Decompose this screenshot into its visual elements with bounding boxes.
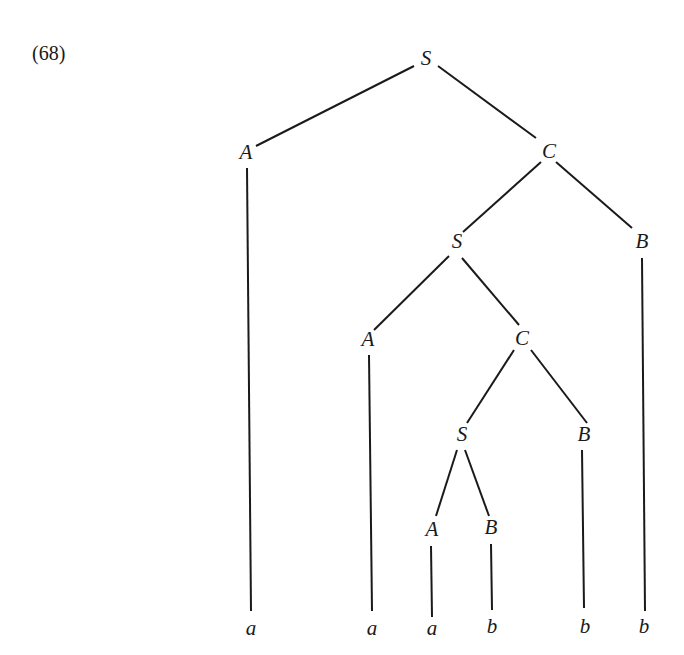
tree-leaf-a: a: [246, 616, 257, 640]
tree-leaf-b: b: [487, 614, 498, 638]
tree-node-A: A: [424, 517, 439, 541]
tree-edge: [467, 350, 514, 423]
tree-edge: [491, 544, 492, 610]
tree-node-A: A: [238, 140, 253, 164]
tree-edge: [374, 256, 449, 330]
tree-edge: [256, 66, 414, 146]
tree-node-B: B: [485, 515, 498, 539]
tree-edge: [436, 450, 457, 516]
tree-node-S: S: [421, 46, 432, 70]
tree-node-C: C: [515, 326, 530, 350]
tree-edge: [465, 450, 489, 516]
tree-node-C: C: [542, 139, 557, 163]
tree-node-A: A: [360, 327, 375, 351]
tree-nodes: SACSBACSBABaaabbb: [238, 46, 650, 640]
tree-edge: [431, 546, 432, 617]
tree-leaf-a: a: [427, 616, 438, 640]
tree-node-B: B: [578, 422, 591, 446]
tree-leaf-b: b: [580, 614, 591, 638]
tree-leaf-b: b: [639, 614, 650, 638]
tree-node-S: S: [457, 422, 468, 446]
tree-edge: [369, 355, 372, 611]
tree-node-S: S: [452, 229, 463, 253]
tree-edge: [531, 350, 587, 423]
tree-edge: [556, 162, 632, 228]
syntax-tree: SACSBACSBABaaabbb: [0, 0, 684, 655]
tree-edge: [463, 162, 541, 232]
tree-edge: [462, 258, 519, 325]
tree-edge: [582, 450, 584, 608]
tree-node-B: B: [636, 229, 649, 253]
tree-edges: [247, 66, 645, 617]
tree-edge: [438, 66, 536, 138]
tree-leaf-a: a: [367, 616, 378, 640]
tree-edge: [247, 168, 251, 611]
tree-edge: [642, 258, 645, 611]
